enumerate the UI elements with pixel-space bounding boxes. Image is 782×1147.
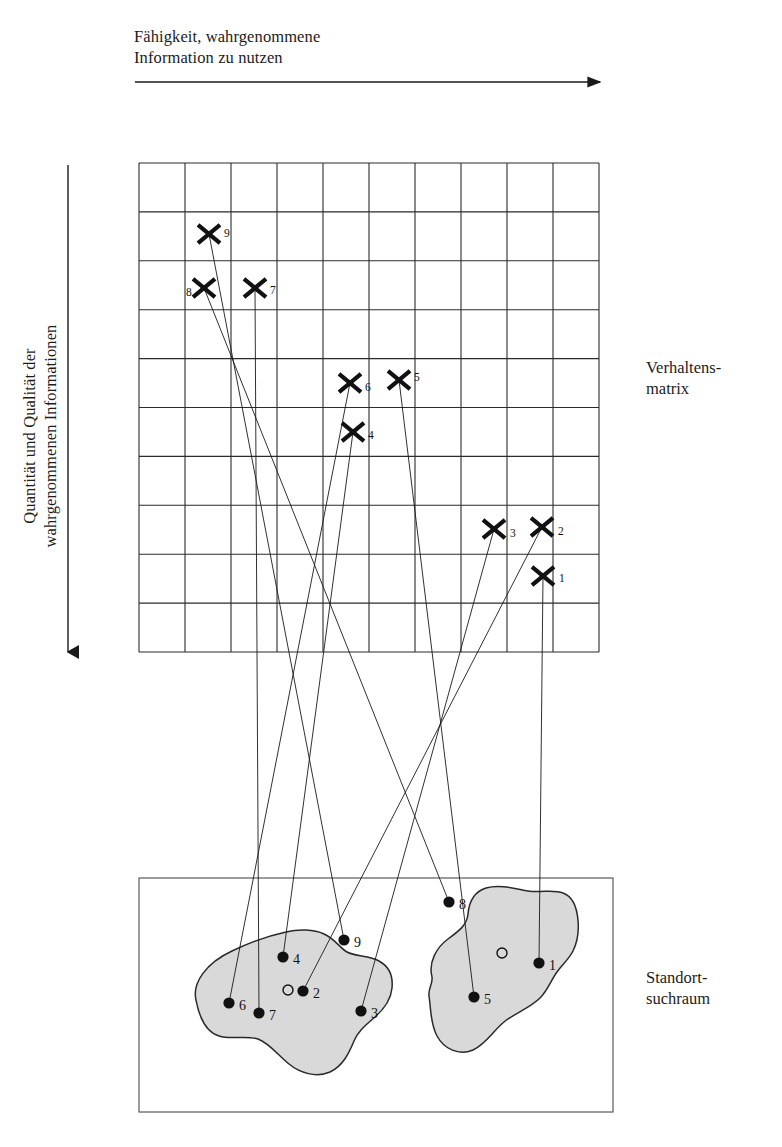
site-blobs (195, 886, 578, 1074)
site-point-dot (253, 1007, 264, 1018)
site-point-label-2: 2 (313, 986, 320, 1001)
matrix-marker-2: 2 (531, 518, 564, 537)
site-point-dot (277, 951, 288, 962)
site-point-label-5: 5 (484, 992, 491, 1007)
matrix-marker-label-8: 8 (186, 286, 192, 298)
site-point-label-3: 3 (371, 1006, 378, 1021)
site-point-dot (443, 896, 454, 907)
matrix-x-markers: 123456789 (186, 225, 565, 585)
site-point-dot (468, 991, 479, 1002)
matrix-marker-label-4: 4 (368, 429, 374, 441)
matrix-marker-label-7: 7 (270, 284, 276, 296)
matrix-marker-label-2: 2 (558, 525, 564, 537)
matrix-marker-6: 6 (339, 374, 371, 393)
site-point-label-9: 9 (354, 935, 361, 950)
matrix-marker-label-3: 3 (510, 527, 516, 539)
site-point-label-6: 6 (239, 998, 246, 1013)
matrix-marker-label-9: 9 (224, 227, 230, 239)
site-point-dot (338, 934, 349, 945)
connector-line-x8 (204, 288, 449, 902)
site-point-label-7: 7 (269, 1008, 276, 1023)
matrix-marker-1: 1 (532, 567, 565, 585)
connector-line-x7 (255, 288, 259, 1013)
matrix-marker-9: 9 (198, 225, 230, 243)
site-point-dot (355, 1005, 366, 1016)
site-point-label-1: 1 (549, 958, 556, 973)
matrix-marker-8: 8 (186, 279, 215, 298)
matrix-marker-3: 3 (483, 520, 516, 539)
matrix-marker-label-5: 5 (414, 371, 420, 383)
diagram-canvas: Fähigkeit, wahrgenommene Information zu … (0, 0, 782, 1147)
matrix-marker-7: 7 (244, 279, 276, 297)
matrix-marker-label-1: 1 (559, 572, 565, 584)
site-point-dot (297, 985, 308, 996)
site-point-dot (533, 957, 544, 968)
site-point-label-4: 4 (293, 952, 300, 967)
matrix-marker-label-6: 6 (365, 381, 371, 393)
site-point-8: 8 (443, 896, 466, 912)
diagram-svg: 123456789 123456789 (0, 0, 782, 1147)
site-point-dot (223, 997, 234, 1008)
site-point-label-8: 8 (459, 897, 466, 912)
